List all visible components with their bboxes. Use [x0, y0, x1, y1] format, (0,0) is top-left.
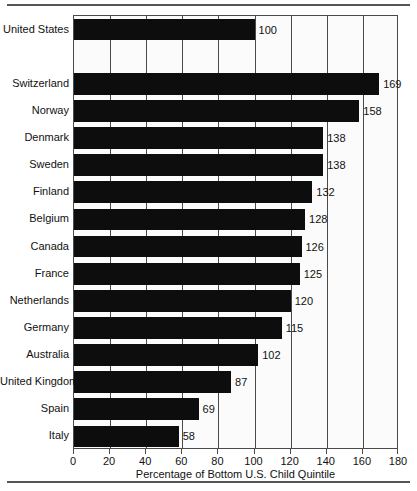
y-axis-label-canada: Canada: [0, 240, 69, 252]
bar-netherlands: [74, 290, 291, 312]
x-tick-label-0: 0: [70, 455, 76, 467]
bar-value-label: 158: [359, 105, 381, 117]
x-tick-40: [145, 449, 146, 454]
bar-value-label: 169: [379, 78, 401, 90]
bar-row: 102: [74, 344, 397, 366]
bar-switzerland: [74, 73, 379, 95]
bar-value-label: 120: [291, 295, 313, 307]
x-tick-label-40: 40: [139, 455, 151, 467]
x-tick-label-140: 140: [317, 455, 335, 467]
x-tick-180: [397, 449, 398, 454]
bar-value-label: 100: [255, 24, 277, 36]
bar-france: [74, 263, 300, 285]
bar-value-label: 132: [312, 186, 334, 198]
y-axis-label-france: France: [0, 267, 69, 279]
bar-row: 128: [74, 209, 397, 231]
bar-sweden: [74, 154, 323, 176]
bar-rows: 1001691581381381321281261251201151028769…: [74, 16, 397, 448]
x-tick-140: [326, 449, 327, 454]
x-tick-label-160: 160: [353, 455, 371, 467]
x-tick-label-180: 180: [389, 455, 407, 467]
bar-value-label: 125: [300, 268, 322, 280]
bar-value-label: 69: [199, 403, 215, 415]
y-axis-label-netherlands: Netherlands: [0, 294, 69, 306]
bar-row: 115: [74, 317, 397, 339]
bar-belgium: [74, 209, 305, 231]
y-axis-label-denmark: Denmark: [0, 131, 69, 143]
y-axis-label-germany: Germany: [0, 321, 69, 333]
x-tick-20: [109, 449, 110, 454]
bar-row: 100: [74, 19, 397, 41]
bar-canada: [74, 236, 302, 258]
x-axis-title: Percentage of Bottom U.S. Child Quintile: [73, 468, 398, 480]
x-tick-160: [362, 449, 363, 454]
x-tick-120: [290, 449, 291, 454]
bar-row: 58: [74, 426, 397, 448]
bar-row: 138: [74, 127, 397, 149]
y-axis-label-sweden: Sweden: [0, 158, 69, 170]
bar-row: 69: [74, 398, 397, 420]
x-tick-label-60: 60: [175, 455, 187, 467]
bar-row: 158: [74, 100, 397, 122]
bar-value-label: 138: [323, 132, 345, 144]
x-axis-tick-labels: 020406080100120140160180: [73, 455, 398, 469]
chart-figure: 1001691581381381321281261251201151028769…: [0, 0, 417, 491]
x-tick-label-20: 20: [103, 455, 115, 467]
y-axis-label-united-kingdom: United Kingdom: [0, 375, 69, 387]
bar-row: 87: [74, 371, 397, 393]
bar-row: 126: [74, 236, 397, 258]
bar-norway: [74, 100, 359, 122]
y-axis-label-norway: Norway: [0, 104, 69, 116]
x-tick-100: [254, 449, 255, 454]
bar-value-label: 115: [282, 322, 304, 334]
top-divider-rule: [7, 4, 410, 6]
x-tick-80: [217, 449, 218, 454]
bar-row: 132: [74, 181, 397, 203]
x-tick-60: [181, 449, 182, 454]
bar-row: 169: [74, 73, 397, 95]
y-axis-label-united-states: United States: [0, 23, 69, 35]
bar-value-label: 126: [302, 241, 324, 253]
bar-italy: [74, 426, 179, 448]
bottom-divider-rule: [7, 481, 410, 483]
y-axis-label-italy: Italy: [0, 429, 69, 441]
bar-value-label: 102: [258, 349, 280, 361]
x-tick-label-80: 80: [211, 455, 223, 467]
bar-value-label: 128: [305, 213, 327, 225]
bar-value-label: 58: [179, 430, 195, 442]
y-axis-label-spain: Spain: [0, 402, 69, 414]
bar-row: 125: [74, 263, 397, 285]
y-axis-label-finland: Finland: [0, 185, 69, 197]
x-tick-0: [73, 449, 74, 454]
plot-area: 1001691581381381321281261251201151028769…: [73, 15, 398, 449]
y-axis-labels: United StatesSwitzerlandNorwayDenmarkSwe…: [0, 15, 69, 449]
bar-value-label: 138: [323, 159, 345, 171]
bar-germany: [74, 317, 282, 339]
bar-value-label: 87: [231, 376, 247, 388]
bar-row: 120: [74, 290, 397, 312]
bar-australia: [74, 344, 258, 366]
y-axis-label-switzerland: Switzerland: [0, 77, 69, 89]
bar-finland: [74, 181, 312, 203]
x-tick-label-100: 100: [244, 455, 262, 467]
bar-denmark: [74, 127, 323, 149]
bar-spain: [74, 398, 199, 420]
x-tick-label-120: 120: [280, 455, 298, 467]
bar-united-kingdom: [74, 371, 231, 393]
y-axis-label-belgium: Belgium: [0, 212, 69, 224]
bar-united-states: [74, 19, 255, 41]
bar-row: 138: [74, 154, 397, 176]
y-axis-label-australia: Australia: [0, 348, 69, 360]
